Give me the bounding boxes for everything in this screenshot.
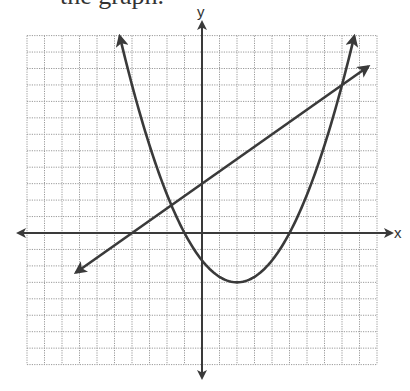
axes: x y <box>18 3 402 378</box>
y-axis-label: y <box>197 3 205 20</box>
linear-function-line <box>76 66 368 272</box>
coordinate-plane: x y <box>0 0 410 391</box>
x-axis-label: x <box>394 224 402 241</box>
